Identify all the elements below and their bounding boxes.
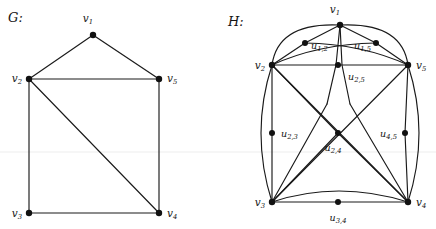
h-node-u15	[373, 40, 379, 46]
h-label-v4: v4	[416, 196, 426, 210]
h-node-u23	[269, 130, 275, 136]
h-edge-v5-u45	[405, 65, 408, 133]
h-node-v3	[269, 199, 275, 205]
h-edge-u45-v4	[405, 133, 408, 202]
graph-g-panel: G: v1v2v3v4v5	[8, 10, 177, 221]
h-node-v4	[405, 199, 411, 205]
h-label-v1: v1	[330, 3, 340, 17]
h-label-u23: u2,3	[281, 128, 298, 141]
graph-g-vertex-labels: v1v2v3v4v5	[12, 12, 178, 221]
graph-h-panel: H: v1v2v3v4v5u1,2u1,5u2,5u2,3u2,4u4,5u3,…	[227, 3, 426, 225]
h-edge-u15-v5	[376, 43, 408, 65]
h-label-u45: u4,5	[380, 128, 397, 141]
g-edge-v1-v2	[29, 35, 93, 79]
graph-g-vertices	[26, 32, 162, 216]
h-label-u12: u1,2	[311, 40, 328, 53]
graph-h-edges	[261, 25, 419, 202]
h-node-u45	[402, 130, 408, 136]
g-label-v3: v3	[12, 207, 22, 221]
h-label-u24: u2,4	[325, 142, 342, 155]
g-node-v4	[156, 210, 162, 216]
g-node-v1	[90, 32, 96, 38]
h-label-u25: u2,5	[348, 71, 365, 84]
h-label-v2: v2	[255, 59, 265, 73]
two-graph-figure: G: v1v2v3v4v5 H: v1v2v3v4v5u1,2u1,5u2,5u…	[0, 0, 436, 229]
h-node-u25	[335, 62, 341, 68]
graph-g-edges	[29, 35, 159, 213]
g-node-v2	[26, 76, 32, 82]
h-node-u34	[335, 199, 341, 205]
h-label-v3: v3	[255, 196, 265, 210]
h-node-u24	[335, 130, 341, 136]
g-label-v5: v5	[167, 72, 177, 86]
g-edge-v1-v5	[93, 35, 159, 79]
h-node-v1	[337, 22, 343, 28]
g-label-v4: v4	[167, 207, 177, 221]
g-label-v2: v2	[12, 72, 22, 86]
h-node-v5	[405, 62, 411, 68]
h-node-v2	[269, 62, 275, 68]
graph-h-caption: H:	[227, 14, 244, 29]
figure-canvas: G: v1v2v3v4v5 H: v1v2v3v4v5u1,2u1,5u2,5u…	[0, 0, 436, 229]
graph-g-caption: G:	[8, 10, 23, 25]
g-node-v3	[26, 210, 32, 216]
h-node-u12	[302, 40, 308, 46]
h-edge-v5-v4-outer-arc	[408, 65, 419, 202]
h-label-v5: v5	[416, 59, 426, 73]
h-label-u34: u3,4	[330, 212, 347, 225]
g-edge-v2-v4	[29, 79, 159, 213]
graph-h-vertices	[269, 22, 411, 205]
g-label-v1: v1	[83, 12, 93, 26]
h-label-u15: u1,5	[354, 40, 371, 53]
g-node-v5	[156, 76, 162, 82]
